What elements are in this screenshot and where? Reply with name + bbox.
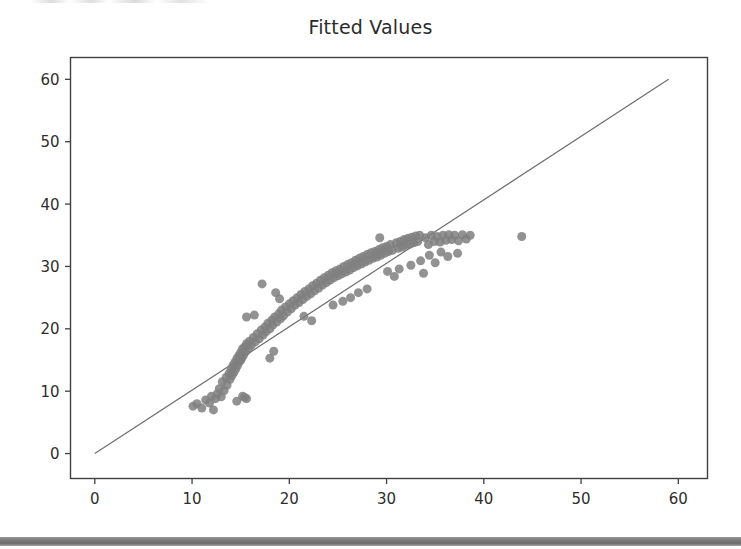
scatter-point bbox=[363, 284, 372, 293]
x-axis-tick-label: 30 bbox=[377, 490, 396, 508]
plot-data-area bbox=[95, 79, 669, 453]
scatter-point bbox=[236, 355, 245, 364]
x-axis-tick-label: 10 bbox=[183, 490, 202, 508]
scatter-point bbox=[242, 312, 251, 321]
figure-canvas: Fitted Values 01020304050600102030405060 bbox=[0, 0, 741, 549]
y-axis-tick-label: 30 bbox=[40, 258, 59, 276]
scatter-point bbox=[197, 404, 206, 413]
scatter-point bbox=[269, 347, 278, 356]
x-axis-tick-label: 20 bbox=[280, 490, 299, 508]
x-axis-tick-label: 60 bbox=[669, 490, 688, 508]
scan-edge-band bbox=[0, 537, 741, 546]
identity-reference-line bbox=[95, 79, 669, 453]
scatter-point bbox=[242, 394, 251, 403]
scatter-point bbox=[453, 249, 462, 258]
scatter-point bbox=[329, 301, 338, 310]
scatter-point bbox=[406, 261, 415, 270]
scatter-point bbox=[354, 288, 363, 297]
y-axis-tick-label: 40 bbox=[40, 196, 59, 214]
scatter-point bbox=[443, 252, 452, 261]
scatter-point bbox=[419, 269, 428, 278]
scatter-point bbox=[275, 294, 284, 303]
scatter-series bbox=[189, 230, 527, 414]
y-axis-tick-label: 20 bbox=[40, 320, 59, 338]
scatter-point bbox=[250, 311, 259, 320]
x-axis-tick-label: 50 bbox=[572, 490, 591, 508]
y-axis-tick-label: 50 bbox=[40, 133, 59, 151]
scatter-point bbox=[425, 251, 434, 260]
scatter-point bbox=[431, 258, 440, 267]
scatter-point bbox=[299, 312, 308, 321]
scatter-point bbox=[517, 232, 526, 241]
y-axis-tick-label: 10 bbox=[40, 383, 59, 401]
scatter-plot: 01020304050600102030405060 bbox=[0, 0, 741, 549]
scatter-point bbox=[395, 264, 404, 273]
scatter-point bbox=[346, 293, 355, 302]
scatter-point bbox=[416, 256, 425, 265]
scatter-point bbox=[209, 405, 218, 414]
scatter-point bbox=[383, 267, 392, 276]
scatter-point bbox=[258, 279, 267, 288]
scatter-point bbox=[232, 397, 241, 406]
scatter-point bbox=[375, 233, 384, 242]
x-axis-tick-label: 40 bbox=[474, 490, 493, 508]
x-axis-tick-label: 0 bbox=[90, 490, 100, 508]
scatter-point bbox=[466, 231, 475, 240]
scatter-point bbox=[338, 297, 347, 306]
y-axis-tick-label: 60 bbox=[40, 71, 59, 89]
y-axis-tick-label: 0 bbox=[50, 445, 60, 463]
scatter-point bbox=[307, 316, 316, 325]
